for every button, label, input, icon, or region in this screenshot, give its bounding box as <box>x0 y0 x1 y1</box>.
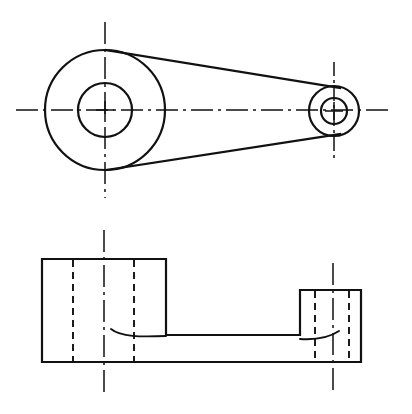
small-boss-center-mark <box>325 102 343 120</box>
front-view-outline <box>42 259 361 362</box>
drawing-sheet <box>0 0 412 414</box>
technical-drawing-canvas <box>0 0 412 414</box>
left-fillet-curve <box>111 329 166 336</box>
top-view <box>16 22 389 198</box>
upper-tangent-web-line <box>106 50 340 88</box>
large-boss-center-mark <box>96 101 114 119</box>
lower-tangent-web-line <box>106 134 340 170</box>
front-view <box>42 230 361 392</box>
